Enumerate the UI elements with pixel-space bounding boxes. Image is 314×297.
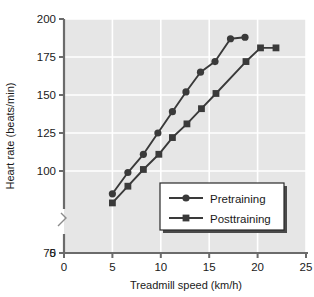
data-point-circle (197, 69, 204, 76)
chart-figure: 075100125150175200 0510152025 Heart rate… (0, 0, 314, 297)
legend-label: Posttraining (210, 213, 271, 225)
data-point-circle (227, 35, 234, 42)
data-point-square (155, 151, 162, 158)
data-point-square (169, 134, 176, 141)
data-point-circle (124, 169, 131, 176)
data-point-square (109, 200, 116, 207)
data-point-circle (182, 88, 189, 95)
x-tick-label: 15 (203, 261, 216, 273)
data-point-square (243, 58, 250, 65)
legend-marker-square (183, 215, 190, 222)
x-tick-label: 0 (61, 261, 67, 273)
data-point-circle (140, 151, 147, 158)
y-tick-label: 200 (37, 13, 56, 25)
x-tick-label: 20 (251, 261, 264, 273)
y-axis-title: Heart rate (beats/min) (4, 83, 16, 190)
data-point-circle (169, 108, 176, 115)
data-point-square (184, 120, 191, 127)
heart-rate-vs-treadmill-speed-chart: 075100125150175200 0510152025 Heart rate… (0, 0, 314, 297)
data-point-square (213, 90, 220, 97)
y-tick-label: 75 (43, 247, 56, 259)
data-point-circle (109, 190, 116, 197)
chart-legend: PretrainingPosttraining (160, 183, 287, 233)
x-axis-title: Treadmill speed (km/h) (130, 279, 242, 291)
y-tick-label: 100 (37, 165, 56, 177)
x-tick-label: 5 (109, 261, 115, 273)
x-tick-label: 10 (154, 261, 167, 273)
y-tick-label: 125 (37, 127, 56, 139)
y-tick-label: 175 (37, 51, 56, 63)
legend-label: Pretraining (210, 193, 266, 205)
y-tick-label: 150 (37, 89, 56, 101)
data-point-square (198, 105, 205, 112)
data-point-square (273, 44, 280, 51)
data-point-square (257, 44, 264, 51)
data-point-circle (241, 34, 248, 41)
data-point-square (124, 183, 131, 190)
data-point-circle (211, 58, 218, 65)
data-point-square (140, 166, 147, 173)
legend-marker-circle (182, 194, 189, 201)
x-tick-label: 25 (300, 261, 313, 273)
data-point-circle (154, 129, 161, 136)
